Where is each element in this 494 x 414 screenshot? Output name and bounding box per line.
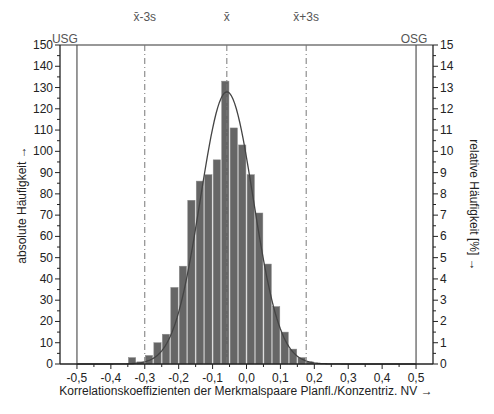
histogram-bar [205, 175, 212, 364]
x-tick-label: -0,4 [101, 371, 122, 385]
y-tick-label: 100 [33, 144, 53, 158]
y-tick-label: 30 [40, 293, 54, 307]
y-tick-label: 0 [46, 357, 53, 371]
histogram-bars [128, 81, 313, 364]
y2-tick-label: 9 [440, 166, 447, 180]
y-tick-label: 50 [40, 251, 54, 265]
y2-tick-label: 8 [440, 187, 447, 201]
normal-curve [77, 92, 416, 364]
y2-tick-label: 7 [440, 208, 447, 222]
reference-label: x̄ [224, 10, 230, 24]
x-tick-label: 0,4 [374, 371, 391, 385]
y2-tick-label: 2 [440, 314, 447, 328]
y2-tick-label: 6 [440, 229, 447, 243]
reference-label: x̄+3s [293, 10, 319, 24]
y-tick-label: 140 [33, 59, 53, 73]
x-tick-label: 0,2 [306, 371, 323, 385]
y-tick-label: 80 [40, 187, 54, 201]
y2-tick-label: 10 [440, 144, 454, 158]
x-tick-label: 0,0 [238, 371, 255, 385]
x-tick-label: 0,3 [340, 371, 357, 385]
y-axis-label-right: relative Häufigkeit [%] → [467, 139, 481, 270]
normal-distribution-curve [77, 92, 416, 364]
x-tick-label: 0,1 [272, 371, 289, 385]
y-tick-label: 60 [40, 229, 54, 243]
y2-tick-label: 12 [440, 102, 454, 116]
y-axis-label-left: absolute Häufigkeit → [15, 146, 29, 263]
histogram-bar [230, 128, 237, 364]
y-tick-label: 40 [40, 272, 54, 286]
reference-label: x̄-3s [133, 10, 156, 24]
histogram-chart: USGOSGx̄-3sx̄x̄+3s 010203040506070809010… [0, 0, 494, 414]
y-tick-label: 20 [40, 314, 54, 328]
y2-tick-label: 13 [440, 81, 454, 95]
y2-tick-label: 11 [440, 123, 453, 137]
y2-tick-label: 0 [440, 357, 447, 371]
y2-tick-label: 3 [440, 293, 447, 307]
y2-tick-label: 14 [440, 59, 454, 73]
histogram-bar [196, 181, 203, 364]
x-tick-label: -0,2 [168, 371, 189, 385]
y2-tick-label: 1 [440, 336, 447, 350]
y-tick-label: 150 [33, 38, 53, 52]
histogram-bar [239, 145, 246, 364]
y-tick-label: 130 [33, 81, 53, 95]
x-tick-label: -0,1 [202, 371, 223, 385]
histogram-bar [213, 160, 220, 364]
reference-label: OSG [401, 32, 428, 46]
y-tick-label: 110 [34, 123, 53, 137]
histogram-bar [281, 332, 288, 364]
histogram-bar [222, 81, 229, 364]
x-tick-label: -0,5 [67, 371, 88, 385]
histogram-bar [188, 200, 195, 364]
y-tick-label: 90 [40, 166, 54, 180]
x-tick-label: 0,5 [408, 371, 425, 385]
y2-tick-label: 15 [440, 38, 454, 52]
histogram-bar [247, 175, 254, 364]
y2-tick-label: 5 [440, 251, 447, 265]
x-axis-label: Korrelationskoeffizienten der Merkmalspa… [59, 384, 432, 398]
reference-label: USG [52, 32, 78, 46]
x-tick-label: -0,3 [134, 371, 155, 385]
y2-tick-label: 4 [440, 272, 447, 286]
y-tick-label: 70 [40, 208, 54, 222]
y-tick-label: 120 [33, 102, 53, 116]
y-tick-label: 10 [40, 336, 54, 350]
